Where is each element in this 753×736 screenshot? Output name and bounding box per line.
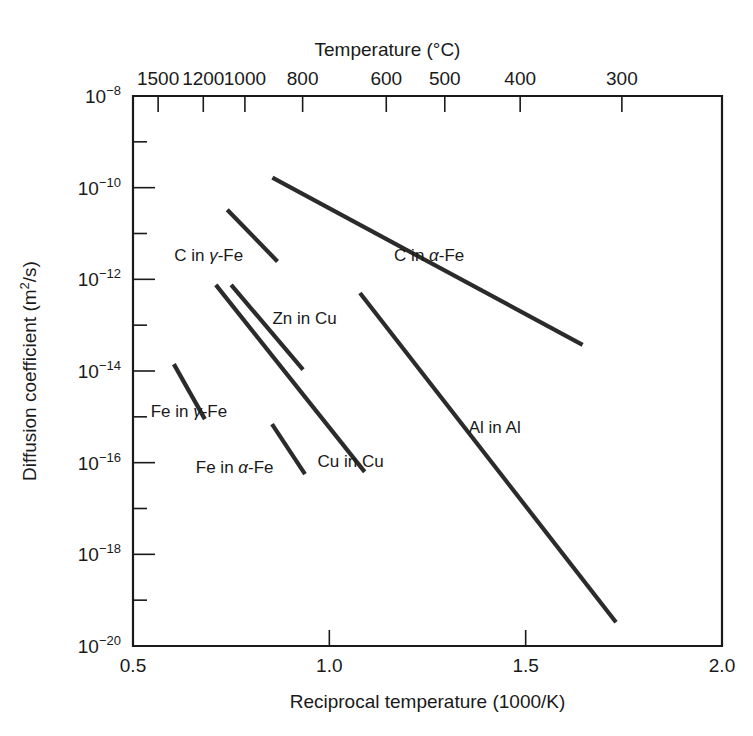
bottom-axis-tick-label: 1.0 — [316, 655, 342, 676]
plot-frame — [133, 96, 722, 646]
top-axis-tick-label: 400 — [504, 68, 536, 89]
y-axis-tick-label: 10−12 — [78, 266, 121, 290]
top-axis-tick-label: 1000 — [224, 68, 266, 89]
y-axis-tick-label: 10−10 — [78, 175, 121, 199]
top-axis-tick-label: 500 — [429, 68, 461, 89]
y-axis-tick-label: 10−16 — [78, 450, 121, 474]
arrhenius-plot-svg: 150012001000800600500400300Temperature (… — [0, 0, 753, 736]
bottom-axis-tick-label: 1.5 — [512, 655, 538, 676]
series-label: C in γ-Fe — [174, 246, 243, 265]
series-label: C in α-Fe — [394, 246, 464, 265]
x-axis-title: Reciprocal temperature (1000/K) — [290, 691, 566, 712]
y-axis-title: Diffusion coefficient (m2/s) — [17, 261, 40, 481]
y-axis-tick-label: 10−20 — [78, 633, 121, 657]
series-label: Cu in Cu — [318, 452, 384, 471]
series-line[interactable] — [272, 424, 305, 474]
diffusion-coefficient-chart: 150012001000800600500400300Temperature (… — [0, 0, 753, 736]
y-axis-tick-label: 10−8 — [85, 83, 121, 107]
top-axis-tick-label: 600 — [370, 68, 402, 89]
series-label: Zn in Cu — [272, 309, 336, 328]
top-axis-tick-label: 800 — [287, 68, 319, 89]
top-axis-tick-label: 1200 — [182, 68, 224, 89]
top-axis-tick-label: 300 — [606, 68, 638, 89]
series-label: Al in Al — [469, 418, 521, 437]
top-axis-tick-label: 1500 — [137, 68, 179, 89]
series-label: Fe in γ-Fe — [151, 402, 228, 421]
bottom-axis-tick-label: 0.5 — [120, 655, 146, 676]
y-axis-tick-label: 10−14 — [78, 358, 121, 382]
top-axis-title: Temperature (°C) — [315, 39, 461, 60]
series-label: Fe in α-Fe — [196, 458, 274, 477]
y-axis-tick-label: 10−18 — [78, 541, 121, 565]
bottom-axis-tick-label: 2.0 — [709, 655, 735, 676]
